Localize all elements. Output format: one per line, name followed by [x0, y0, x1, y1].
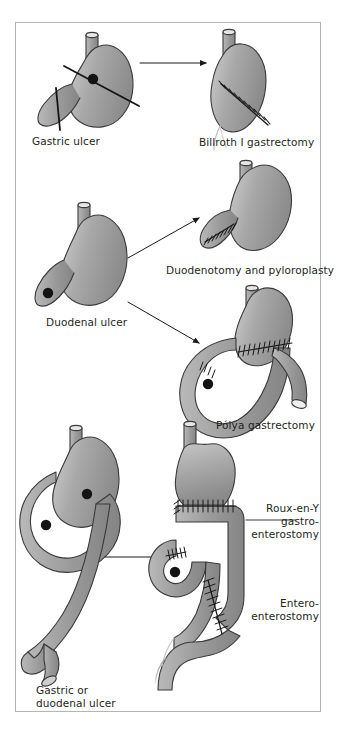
caption-billroth-i: Billroth I gastrectomy: [199, 136, 314, 149]
ulcer-marker-duodenal: [41, 520, 51, 530]
organ-roux-en-y: [149, 421, 244, 690]
ulcer-marker-gastric: [82, 489, 92, 499]
caption-roux-en-y-line2: gastro-: [199, 515, 319, 528]
ulcer-marker: [43, 288, 53, 298]
ulcer-marker-roux: [170, 567, 180, 577]
caption-duodenal-ulcer: Duodenal ulcer: [46, 316, 127, 329]
organ-billroth-i: [211, 29, 266, 150]
caption-bottom-ulcer-line2: duodenal ulcer: [36, 697, 116, 710]
caption-gastric-ulcer: Gastric ulcer: [32, 135, 100, 148]
caption-polya-gastrectomy: Pólya gastrectomy: [216, 419, 315, 432]
caption-entero-enterostomy-line2: enterostomy: [199, 610, 319, 623]
caption-bottom-ulcer-line1: Gastric or: [36, 684, 88, 697]
ulcer-marker: [203, 379, 213, 389]
figure-page: Gastric ulcer Billroth I gastrectomy Duo…: [0, 0, 337, 731]
caption-roux-en-y-line1: Roux-en-Y: [199, 502, 319, 515]
caption-duodenotomy-pyloroplasty: Duodenotomy and pyloroplasty: [166, 264, 334, 277]
caption-roux-en-y-line3: enterostomy: [199, 528, 319, 541]
organ-gastric-ulcer: [38, 32, 133, 127]
caption-entero-enterostomy-line1: Entero-: [199, 597, 319, 610]
organ-polya: [180, 285, 308, 438]
